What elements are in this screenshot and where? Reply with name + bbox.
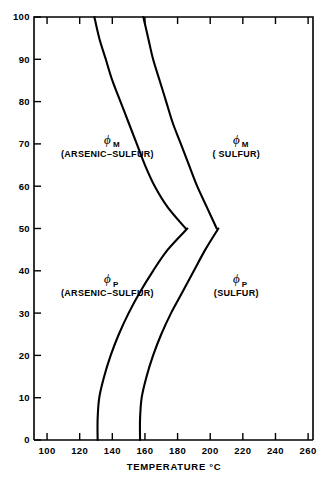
y-tick-label: 10 xyxy=(19,392,30,403)
y-tick-label: 50 xyxy=(19,223,30,234)
x-tick-label: 140 xyxy=(104,445,121,456)
y-tick-label: 40 xyxy=(19,265,30,276)
curve-phi-p-arsenic-sulfur xyxy=(98,229,188,441)
x-axis-ticks xyxy=(47,17,308,440)
x-tick-label: 160 xyxy=(136,445,153,456)
y-tick-label: 0 xyxy=(24,434,30,445)
data-curves xyxy=(94,17,218,440)
axis-frame xyxy=(34,17,313,440)
x-tick-label: 120 xyxy=(71,445,88,456)
x-axis-tick-labels: 100120140160180200220240260 xyxy=(39,445,317,456)
chart-figure: 100120140160180200220240260 010203040506… xyxy=(0,0,332,483)
curve-phi-p-sulfur xyxy=(140,229,218,441)
x-tick-label: 220 xyxy=(234,445,251,456)
y-tick-label: 80 xyxy=(19,96,30,107)
y-axis-tick-labels: 0102030405060708090100 xyxy=(13,11,30,445)
y-tick-label: 20 xyxy=(19,350,30,361)
annotation-symbol: ϕ xyxy=(104,271,111,286)
x-tick-label: 180 xyxy=(169,445,186,456)
phase-diagram-plot: 100120140160180200220240260 010203040506… xyxy=(0,0,332,483)
y-tick-label: 70 xyxy=(19,138,30,149)
x-tick-label: 200 xyxy=(202,445,219,456)
x-axis-title: TEMPERATURE °C xyxy=(127,461,222,472)
annotation-caption: (ARSENIC–SULFUR) xyxy=(61,149,154,159)
x-tick-label: 100 xyxy=(39,445,56,456)
curve-phi-m-sulfur xyxy=(143,17,216,229)
y-tick-label: 30 xyxy=(19,308,30,319)
x-tick-label: 240 xyxy=(267,445,284,456)
x-tick-label: 260 xyxy=(300,445,317,456)
annotation-caption: ( SULFUR) xyxy=(212,149,260,159)
annotation-symbol: ϕ xyxy=(104,132,111,147)
annotation-symbol: ϕ xyxy=(233,132,240,147)
y-axis-ticks xyxy=(34,17,41,440)
annotation-caption: (SULFUR) xyxy=(214,288,259,298)
y-tick-label: 100 xyxy=(13,11,30,22)
y-tick-label: 90 xyxy=(19,54,30,65)
annotation-caption: (ARSENIC–SULFUR) xyxy=(61,288,154,298)
curve-annotations: ϕM(ARSENIC–SULFUR)ϕM( SULFUR)ϕP(ARSENIC–… xyxy=(61,132,260,299)
annotation-symbol: ϕ xyxy=(233,271,240,286)
y-tick-label: 60 xyxy=(19,181,30,192)
